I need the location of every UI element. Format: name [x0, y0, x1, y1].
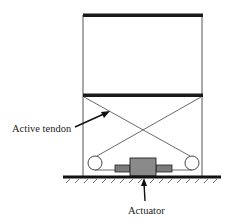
right-pulley	[185, 156, 199, 170]
actuator-right-rod	[156, 165, 172, 172]
middle-floor-beam	[83, 94, 203, 98]
top-floor-beam	[83, 14, 203, 18]
left-pulley	[88, 156, 102, 170]
active-tendon-label: Active tendon	[12, 124, 71, 135]
actuator-left-rod	[115, 165, 130, 172]
actuator-body	[130, 158, 156, 176]
ground-line	[63, 176, 221, 179]
tendon-arrow-icon	[75, 111, 110, 127]
actuator-arrow-icon	[141, 178, 147, 201]
frame-diagram	[0, 0, 234, 224]
actuator-label: Actuator	[128, 206, 165, 217]
ground-hatching	[66, 179, 217, 183]
